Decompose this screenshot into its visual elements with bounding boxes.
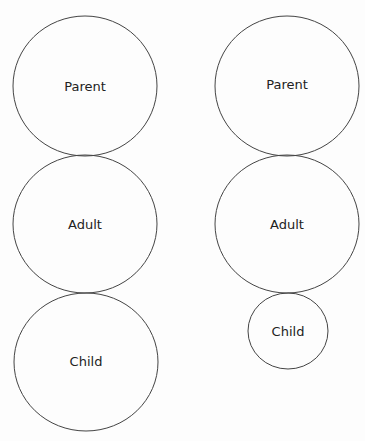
- left-child-label: Child: [70, 354, 103, 369]
- left-adult-label: Adult: [68, 217, 102, 232]
- left-column: Parent Adult Child: [13, 16, 158, 431]
- right-adult-label: Adult: [270, 217, 304, 232]
- right-column: Parent Adult Child: [215, 16, 359, 369]
- right-parent-label: Parent: [266, 77, 308, 92]
- ego-state-diagram: Parent Adult Child Parent Adult Child: [0, 0, 365, 441]
- left-parent-label: Parent: [64, 79, 106, 94]
- right-child-label: Child: [272, 324, 305, 339]
